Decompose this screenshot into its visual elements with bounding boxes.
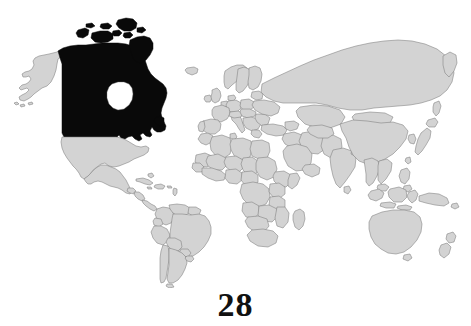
country-australia — [369, 210, 422, 254]
country-canada-arctic-island-a — [100, 23, 112, 29]
country-madagascar — [293, 209, 305, 230]
country-alaska-aleutians-3 — [28, 102, 33, 105]
country-kenya-uganda — [269, 183, 285, 198]
country-tasmania — [403, 254, 412, 261]
country-costa-rica-panama — [142, 200, 157, 211]
country-somalia — [288, 173, 300, 189]
country-lesser-antilles — [173, 188, 177, 196]
country-japan — [415, 128, 431, 155]
country-canada-ellesmere-island — [116, 18, 137, 31]
country-taiwan — [405, 157, 411, 164]
country-cuba — [136, 178, 153, 185]
country-alaska-aleutians-2 — [20, 104, 25, 107]
country-new-guinea — [419, 193, 449, 206]
country-vietnam-laos-cambodia — [378, 159, 392, 184]
country-bahamas — [148, 173, 154, 178]
country-myanmar-thailand — [364, 158, 380, 186]
country-caucasus — [285, 121, 299, 131]
country-greece — [251, 130, 262, 138]
country-lesser-sunda — [397, 205, 412, 210]
country-united-kingdom — [211, 88, 221, 103]
country-hispaniola — [154, 184, 165, 189]
country-poland — [240, 99, 254, 110]
world-map-figure: 28 — [0, 0, 471, 326]
country-philippines — [399, 168, 410, 184]
country-mozambique — [275, 207, 289, 228]
world-map-container — [0, 0, 471, 288]
country-sri-lanka — [344, 186, 351, 194]
country-russia — [261, 40, 454, 110]
country-ukraine-belarus — [252, 100, 280, 116]
country-finland — [248, 66, 262, 90]
country-turkey — [261, 124, 287, 136]
country-new-zealand-north — [446, 232, 456, 243]
country-czech-slovakia-hungary — [240, 109, 256, 118]
country-papua-islands — [451, 203, 459, 209]
country-puerto-rico — [167, 186, 172, 188]
country-egypt — [250, 140, 270, 159]
country-south-africa — [247, 229, 278, 247]
country-iceland — [185, 67, 198, 75]
country-korea — [408, 134, 416, 144]
country-nigeria — [225, 169, 242, 184]
country-kazakhstan — [296, 105, 345, 128]
figure-caption-number: 28 — [0, 286, 471, 324]
country-borneo — [388, 187, 407, 202]
country-sumatra — [368, 189, 384, 201]
country-yemen-oman — [302, 164, 320, 177]
country-canada-arctic-island-c — [123, 32, 133, 38]
country-alaska-aleutians — [14, 102, 19, 105]
world-map-svg — [0, 0, 471, 288]
country-siberia-kamchatka — [443, 52, 457, 77]
country-sakhalin — [433, 101, 441, 116]
country-canada-arctic-island-b — [112, 30, 122, 36]
country-canada-arctic-island-d — [86, 23, 95, 28]
country-algeria — [210, 135, 232, 158]
country-sulawesi — [407, 190, 418, 203]
country-japan-hokkaido — [426, 118, 438, 127]
country-java — [380, 202, 396, 208]
country-honduras-nicaragua — [134, 192, 145, 201]
country-alaska — [19, 50, 64, 101]
country-portugal — [198, 121, 205, 132]
country-canada-banks-island — [76, 28, 89, 38]
country-canada-arctic-island-e — [137, 27, 146, 33]
country-ireland — [204, 95, 212, 102]
country-jamaica — [147, 187, 152, 189]
country-new-zealand-south — [439, 243, 451, 258]
country-angola — [242, 202, 259, 218]
country-canada-victoria-island — [91, 31, 113, 43]
